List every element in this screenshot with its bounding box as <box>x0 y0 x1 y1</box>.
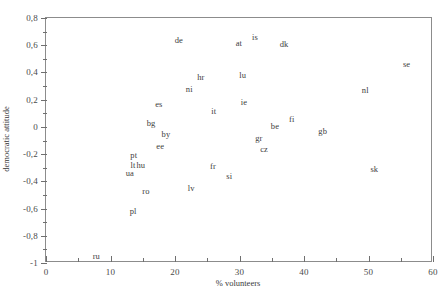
x-tick-mark <box>401 258 402 262</box>
data-point-label: gb <box>318 127 327 136</box>
x-tick-mark <box>272 258 273 262</box>
data-point-label: es <box>155 100 162 109</box>
x-tick-label: 10 <box>106 267 115 277</box>
y-tick-mark <box>41 236 47 237</box>
data-point-label: cz <box>260 144 268 153</box>
data-point-label: bg <box>147 119 156 128</box>
data-point-label: hr <box>197 72 204 81</box>
y-tick-mark <box>43 168 47 169</box>
data-point-label: hu <box>136 161 145 170</box>
y-tick-label: 0 <box>33 122 38 132</box>
data-point-label: pl <box>130 207 137 216</box>
y-tick-mark <box>41 209 47 210</box>
x-tick-label: 30 <box>235 267 244 277</box>
y-tick-mark <box>41 72 47 73</box>
data-point-label: lv <box>188 184 195 193</box>
data-point-label: nl <box>362 86 369 95</box>
x-tick-mark <box>143 258 144 262</box>
y-tick-label: 0,4 <box>26 67 38 77</box>
data-point-label: se <box>403 60 410 69</box>
data-point-label: si <box>226 172 232 181</box>
data-point-label: gr <box>255 134 262 143</box>
data-point-label: ie <box>241 98 247 107</box>
y-tick-mark <box>41 45 47 46</box>
x-tick-mark <box>78 258 79 262</box>
x-tick-label: 50 <box>364 267 373 277</box>
y-tick-mark <box>41 154 47 155</box>
x-tick-mark <box>207 258 208 262</box>
x-tick-label: 40 <box>299 267 308 277</box>
data-point-label: ni <box>186 85 193 94</box>
x-tick-mark <box>433 256 434 262</box>
data-point-label: be <box>271 121 279 130</box>
data-point-label: by <box>162 129 171 138</box>
data-point-label: at <box>236 38 242 47</box>
y-tick-label: 0,6 <box>26 40 38 50</box>
data-point-label: fi <box>289 114 294 123</box>
y-tick-mark <box>43 86 47 87</box>
data-point-label: lu <box>239 71 246 80</box>
y-tick-mark <box>43 59 47 60</box>
y-tick-label: -0,8 <box>23 231 38 241</box>
y-tick-mark <box>43 32 47 33</box>
data-point-label: pt <box>130 151 137 160</box>
data-point-label: it <box>211 106 216 115</box>
y-tick-label: -0,2 <box>23 149 38 159</box>
y-tick-mark <box>41 127 47 128</box>
y-tick-mark <box>43 249 47 250</box>
x-tick-label: 0 <box>44 267 49 277</box>
x-tick-mark <box>304 256 305 262</box>
data-point-label: ua <box>126 169 134 178</box>
scatter-plot-figure: democratic attitude % volunteers 0,80,60… <box>0 0 441 300</box>
data-point-label: ru <box>93 252 100 261</box>
x-tick-mark <box>111 256 112 262</box>
y-tick-mark <box>43 195 47 196</box>
y-tick-label: 0,8 <box>26 13 38 23</box>
y-tick-mark <box>41 18 47 19</box>
x-axis-title: % volunteers <box>216 278 261 288</box>
y-tick-label: -1 <box>30 258 38 268</box>
x-tick-mark <box>240 256 241 262</box>
y-axis-title: democratic attitude <box>1 106 11 171</box>
x-tick-mark <box>369 256 370 262</box>
x-tick-label: 20 <box>170 267 179 277</box>
data-point-label: sk <box>370 165 378 174</box>
data-point-label: dk <box>280 40 289 49</box>
x-tick-mark <box>175 256 176 262</box>
y-tick-label: -0,6 <box>23 204 38 214</box>
y-tick-label: 0,2 <box>26 95 38 105</box>
x-tick-mark <box>336 258 337 262</box>
y-tick-mark <box>41 100 47 101</box>
data-point-label: ee <box>156 142 164 151</box>
y-tick-mark <box>43 141 47 142</box>
y-tick-mark <box>41 181 47 182</box>
y-tick-mark <box>41 263 47 264</box>
y-tick-mark <box>43 113 47 114</box>
plot-area: 0,80,60,40,20-0,2-0,4-0,6-0,8-1 01020304… <box>45 17 432 262</box>
x-tick-mark <box>46 256 47 262</box>
data-point-label: is <box>252 33 258 42</box>
x-tick-label: 60 <box>428 267 437 277</box>
data-point-label: de <box>175 36 183 45</box>
y-tick-mark <box>43 222 47 223</box>
data-point-label: ro <box>142 187 149 196</box>
data-point-label: fr <box>210 162 216 171</box>
y-tick-label: -0,4 <box>23 176 38 186</box>
